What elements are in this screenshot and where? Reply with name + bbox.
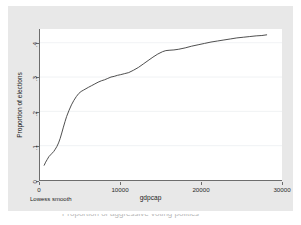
x-tick-mark xyxy=(282,182,283,185)
figure-canvas: Proportion of elections 0.1.2.3.4 010000… xyxy=(8,6,293,211)
caption-strip: Proportion of aggressive voting politics xyxy=(0,214,301,225)
y-tick-label-container: .3 xyxy=(21,73,35,81)
y-tick-label-container: .2 xyxy=(21,108,35,116)
y-tick-label: .4 xyxy=(32,42,38,47)
chart-svg xyxy=(40,29,282,180)
y-tick-label-container: .1 xyxy=(21,142,35,150)
x-tick-mark xyxy=(120,182,121,185)
y-tick-label: .3 xyxy=(32,76,38,81)
x-tick-mark xyxy=(39,182,40,185)
y-tick-label-container: 0 xyxy=(21,177,35,185)
y-axis-title: Proportion of elections xyxy=(16,72,23,138)
x-tick-label: 10000 xyxy=(111,187,128,193)
y-tick-label: 0 xyxy=(32,180,38,183)
gridlines xyxy=(40,43,282,146)
plot-area xyxy=(39,29,282,181)
x-tick-mark xyxy=(201,182,202,185)
y-tick-label: .2 xyxy=(32,111,38,116)
y-tick-label: .1 xyxy=(32,146,38,151)
chart-footnote: Lowess smooth xyxy=(30,196,72,202)
x-tick-label: 20000 xyxy=(192,187,209,193)
y-tick-label-container: .4 xyxy=(21,39,35,47)
y-axis-title-container: Proportion of elections xyxy=(14,29,24,181)
caption-text: Proportion of aggressive voting politics xyxy=(62,214,199,218)
x-tick-label: 0 xyxy=(37,187,40,193)
x-tick-label: 30000 xyxy=(273,187,290,193)
